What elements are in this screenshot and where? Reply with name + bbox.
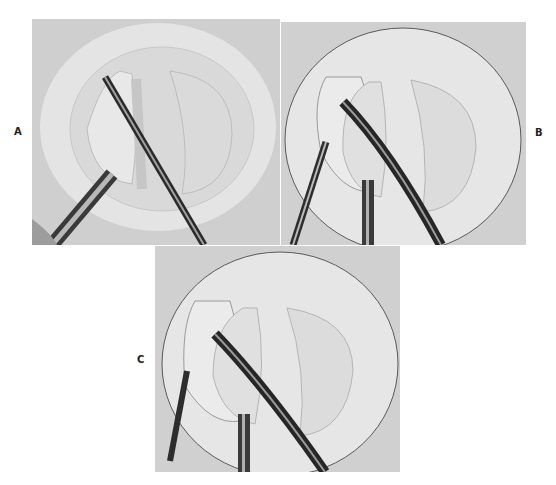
- arthroscopy-photo-c: [155, 246, 400, 472]
- figure-panel-a: [32, 19, 280, 245]
- figure-panel-c: [155, 246, 400, 472]
- panel-label-a: A: [14, 126, 22, 137]
- panel-label-c: C: [137, 354, 144, 365]
- panel-label-b: B: [535, 127, 543, 138]
- arthroscopy-photo-b: [281, 22, 526, 245]
- arthroscopy-photo-a: [32, 19, 280, 245]
- figure-panel-b: [281, 22, 526, 245]
